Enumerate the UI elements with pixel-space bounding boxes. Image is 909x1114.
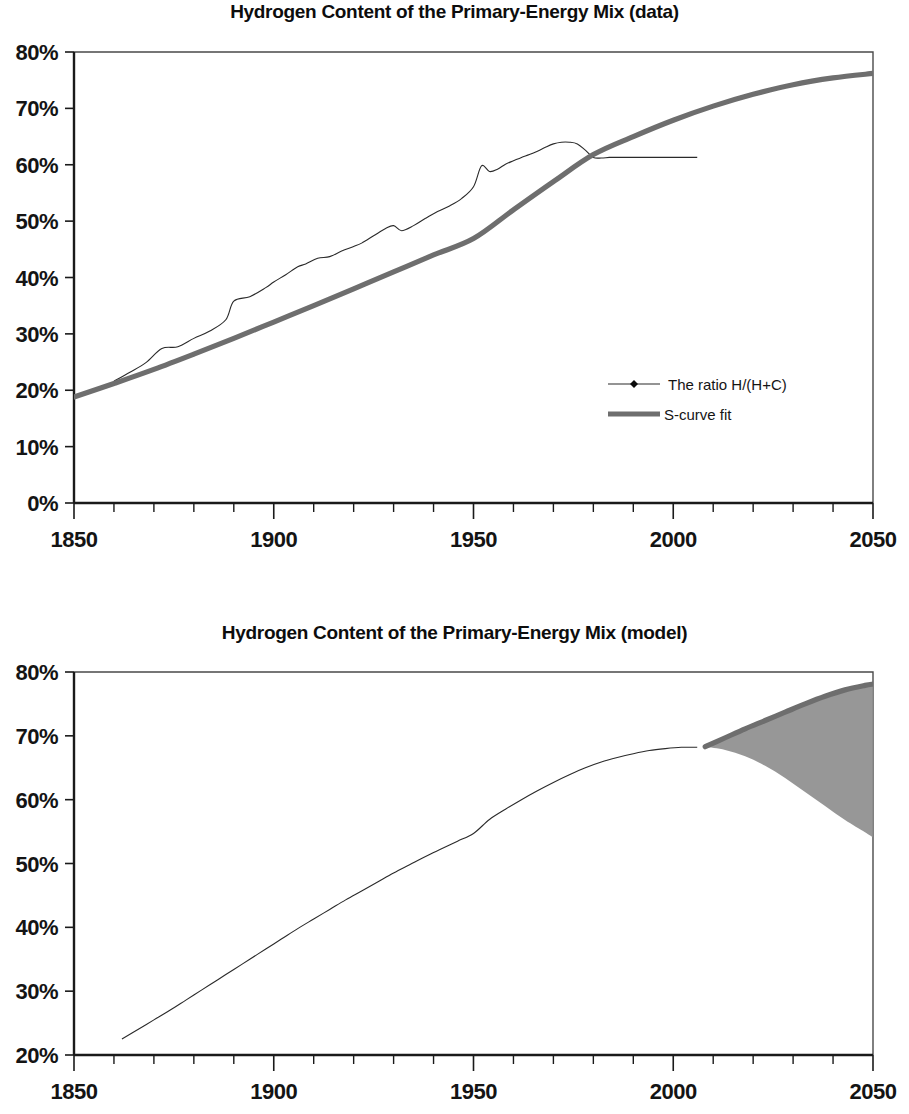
x-tick-label: 2000 [650,527,697,552]
y-tick-label: 30% [15,979,58,1004]
y-tick-label: 60% [15,788,58,813]
series-markers-model-central-path [122,601,697,1036]
y-tick-label: 70% [15,96,58,121]
y-tick-label: 40% [15,266,58,291]
legend-marker-ratio [630,380,638,388]
chart-legend: The ratio H/(H+C)S-curve fit [608,376,787,423]
legend-label-scurve: S-curve fit [664,406,732,423]
y-tick-label: 50% [15,852,58,877]
plot-area [74,1,873,397]
y-tick-label: 40% [15,915,58,940]
chart-canvas-model: 20%30%40%50%60%70%80%1850190019502000205… [0,600,909,1114]
y-tick-label: 50% [15,209,58,234]
x-tick-label: 2000 [650,1079,697,1104]
y-tick-label: 10% [15,435,58,460]
series-connector-line [122,747,697,1039]
y-tick-label: 20% [15,1043,58,1068]
plot-area [122,600,873,1039]
series-markers-the-ratio-h-h-c- [114,1,697,378]
y-tick-label: 80% [15,40,58,65]
x-tick-label: 1950 [450,1079,497,1104]
series-line-s-curve-fit [74,73,873,397]
y-tick-label: 30% [15,322,58,347]
x-tick-label: 1850 [51,527,98,552]
y-tick-label: 20% [15,378,58,403]
x-tick-label: 1900 [250,527,297,552]
chart-canvas-data: 0%10%20%30%40%50%60%70%80%18501900195020… [0,0,909,560]
model-uncertainty-band [705,684,873,837]
y-tick-label: 80% [15,660,58,685]
x-tick-label: 1950 [450,527,497,552]
chart-figure-data: Hydrogen Content of the Primary-Energy M… [0,0,909,560]
x-tick-label: 1850 [51,1079,98,1104]
x-tick-label: 2050 [850,1079,897,1104]
series-connector-line [114,142,697,381]
x-tick-label: 2050 [850,527,897,552]
y-tick-label: 0% [27,491,58,516]
y-tick-label: 70% [15,724,58,749]
x-tick-label: 1900 [250,1079,297,1104]
plot-frame [74,52,873,503]
legend-label-ratio: The ratio H/(H+C) [668,376,787,393]
chart-figure-model: Hydrogen Content of the Primary-Energy M… [0,600,909,1114]
y-tick-label: 60% [15,153,58,178]
